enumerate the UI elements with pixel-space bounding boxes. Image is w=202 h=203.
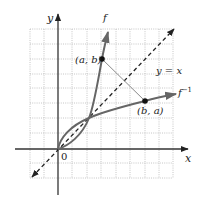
curve-f-inverse-label: f−1	[177, 86, 192, 98]
origin-label: 0	[61, 151, 67, 162]
x-axis-label: x	[185, 152, 192, 165]
y-equals-x-label: y = x	[155, 65, 182, 76]
y-axis-label: y	[46, 12, 54, 25]
point-a-b-label: (a, b)	[75, 54, 102, 65]
grid	[30, 29, 173, 178]
curve-f	[58, 32, 108, 149]
curve-f-label: f	[102, 12, 109, 23]
inverse-function-diagram: y x 0 f f−1 y = x (a, b) (b, a)	[0, 0, 202, 203]
curve-f-inverse	[58, 94, 176, 149]
point-b-a	[142, 98, 148, 104]
point-b-a-label: (b, a)	[137, 105, 164, 116]
